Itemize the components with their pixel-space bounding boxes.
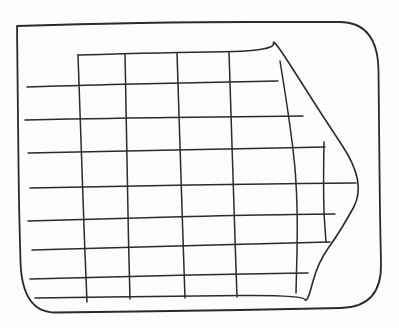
arrow-grid-sketch [0, 0, 399, 328]
sketch-page [0, 0, 399, 328]
grid-vertical-line-6 [324, 142, 326, 242]
grid-horizontal-line-3 [28, 147, 325, 153]
grid-horizontal-line-4 [30, 183, 356, 188]
grid-horizontal-line-7 [30, 273, 308, 279]
grid-vertical-line-1 [78, 55, 87, 302]
grid-horizontal-line-1 [27, 81, 278, 87]
grid-vertical-line-2 [125, 54, 130, 299]
grid-vertical-line-5 [280, 61, 297, 293]
arrow-outline [35, 42, 358, 300]
grid-vertical-line-3 [177, 53, 185, 298]
grid-horizontal-line-6 [32, 242, 330, 250]
grid-horizontal-line-2 [25, 116, 303, 120]
outer-border [17, 22, 381, 313]
grid-vertical-line-4 [229, 52, 237, 297]
